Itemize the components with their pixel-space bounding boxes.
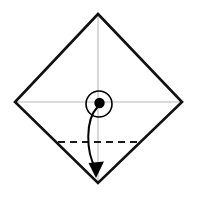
center-point-marker-dot bbox=[94, 98, 104, 108]
origami-step-figure: Origami fold step diagram Square sheet r… bbox=[0, 0, 197, 197]
origami-diagram: Origami fold step diagram Square sheet r… bbox=[0, 0, 197, 197]
